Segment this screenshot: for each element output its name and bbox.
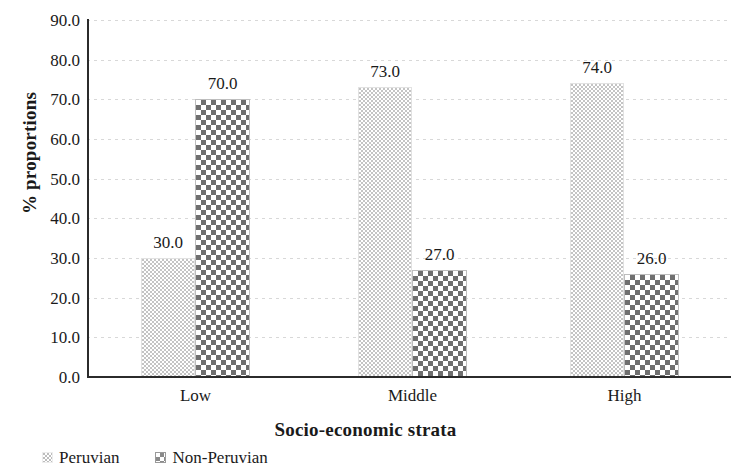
bar-value-label: 70.0 (208, 75, 238, 92)
x-axis-title: Socio-economic strata (0, 419, 731, 441)
bar-value-label: 74.0 (582, 59, 612, 76)
legend-label: Non-Peruvian (172, 449, 267, 466)
plot-area: 30.070.073.027.074.026.0 (87, 20, 731, 377)
y-axis-tick-labels: 90.080.070.060.050.040.030.020.010.00.0 (22, 0, 80, 472)
bar-low-peruvian[interactable] (141, 258, 195, 377)
bar-middle-non-peruvian[interactable] (412, 270, 467, 377)
gridline (87, 20, 731, 21)
x-axis-line (87, 376, 731, 378)
legend-label: Peruvian (59, 449, 119, 466)
y-axis-tick-label: 40.0 (22, 210, 80, 227)
chart-legend: PeruvianNon-Peruvian (42, 449, 268, 466)
bar-high-peruvian[interactable] (570, 83, 624, 377)
y-axis-tick-label: 60.0 (22, 131, 80, 148)
y-axis-tick-label: 70.0 (22, 91, 80, 108)
gridline (87, 60, 731, 61)
x-axis-category-label: Middle (388, 386, 437, 406)
y-axis-tick-label: 20.0 (22, 289, 80, 306)
bar-chart: % proportions 90.080.070.060.050.040.030… (0, 0, 731, 472)
y-axis-tick-label: 10.0 (22, 329, 80, 346)
bar-middle-peruvian[interactable] (358, 87, 412, 377)
y-axis-tick-label: 90.0 (22, 12, 80, 29)
y-axis-tick-label: 50.0 (22, 170, 80, 187)
bar-high-non-peruvian[interactable] (624, 274, 679, 377)
legend-swatch-icon (42, 452, 53, 463)
y-axis-line (87, 19, 89, 378)
legend-item-peruvian[interactable]: Peruvian (42, 449, 119, 466)
y-axis-tick-label: 80.0 (22, 51, 80, 68)
legend-item-non-peruvian[interactable]: Non-Peruvian (155, 449, 267, 466)
bar-value-label: 73.0 (370, 63, 400, 80)
y-axis-tick-label: 30.0 (22, 250, 80, 267)
legend-swatch-icon (155, 452, 166, 463)
x-axis-category-label: Low (180, 386, 211, 406)
y-axis-tick-label: 0.0 (22, 369, 80, 386)
x-axis-category-label: High (608, 386, 642, 406)
bar-low-non-peruvian[interactable] (195, 99, 250, 377)
bar-value-label: 27.0 (425, 246, 455, 263)
bar-value-label: 26.0 (637, 250, 667, 267)
bar-value-label: 30.0 (153, 234, 183, 251)
